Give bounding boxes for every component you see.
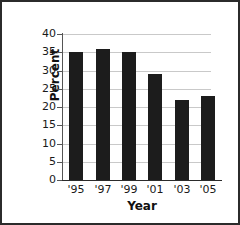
y-axis-tick-labels: 0510152025303540 [30, 6, 56, 225]
y-axis-tick-label: 0 [34, 174, 56, 185]
chart-inner-frame: Percent 0510152025303540 '95'97'99'01'03… [5, 5, 235, 220]
y-axis-tick [57, 107, 62, 108]
x-axis-tick-label: '95 [61, 183, 91, 196]
gridline [63, 180, 211, 181]
y-axis-tick [57, 180, 62, 181]
bar [122, 52, 136, 180]
y-axis-tick [57, 34, 62, 35]
bar [148, 74, 162, 180]
y-axis-tick [57, 125, 62, 126]
y-axis-tick-label: 10 [34, 138, 56, 149]
x-axis-tick-label: '05 [193, 183, 223, 196]
chart-figure: Percent 0510152025303540 '95'97'99'01'03… [0, 0, 240, 225]
y-axis-tick-label: 20 [34, 101, 56, 112]
x-axis-tick-label: '01 [140, 183, 170, 196]
y-axis-tick [57, 71, 62, 72]
bar [69, 52, 83, 180]
y-axis-tick [57, 144, 62, 145]
bar [201, 96, 215, 180]
bar [175, 100, 189, 180]
y-axis-tick [57, 89, 62, 90]
y-axis-tick [57, 52, 62, 53]
y-axis-tick-label: 30 [34, 65, 56, 76]
bar [96, 49, 110, 180]
y-axis-tick-label: 35 [34, 46, 56, 57]
x-axis-title: Year [63, 199, 221, 213]
x-axis-tick-labels: '95'97'99'01'03'05 [63, 183, 221, 199]
bar-series [63, 34, 221, 180]
y-axis-tick-label: 40 [34, 28, 56, 39]
plot-area [63, 34, 221, 180]
y-axis-tick [57, 162, 62, 163]
y-axis-tick-label: 5 [34, 156, 56, 167]
y-axis-tick-label: 15 [34, 119, 56, 130]
y-axis-tick-label: 25 [34, 83, 56, 94]
